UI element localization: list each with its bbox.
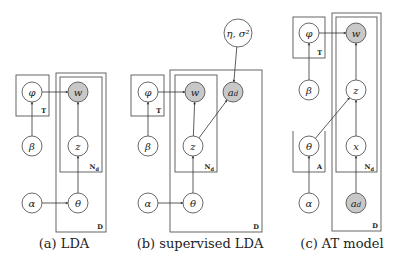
node-label-phi: φ [28,87,35,98]
node-label-w: w [74,87,83,98]
node-label-theta: θ [75,198,81,209]
plate-label-t: T [41,107,46,115]
plate-label-nd: Nd [205,163,215,172]
edge-theta-to-z [315,98,349,139]
node-label-eta: η, σ² [226,28,249,39]
plate-label-a: A [316,163,323,171]
edge-eta-to-ad [234,47,237,82]
plate-label-t: T [317,49,322,57]
caption-lda: (a) LDA [39,236,90,251]
node-label-z: z [352,85,359,96]
graphical-models-figure: TDNdφwβzαθ(a) LDATDNdη, σ²φwadβzαθ(b) su… [0,0,400,266]
node-label-w: w [191,87,200,98]
edge-z-to-w [193,102,194,136]
plate-label-d: D [253,223,259,231]
edge-z-to-ad [199,100,227,138]
plate-label-t: T [156,107,161,115]
node-label-phi: φ [305,28,312,39]
plate-label-d: D [97,223,103,231]
caption-slda: (b) supervised LDA [137,236,264,251]
node-label-alpha: α [145,198,152,209]
plate-label-nd: Nd [90,163,100,172]
node-label-phi: φ [144,87,151,98]
node-label-z: z [74,141,81,152]
node-label-z: z [189,141,196,152]
panel-slda: TDNdη, σ²φwadβzαθ(b) supervised LDA [131,19,264,251]
node-label-beta: β [28,141,35,152]
node-label-beta: β [144,141,151,152]
node-label-x: x [353,141,359,152]
node-label-w: w [352,28,361,39]
panel-at: TADNdφwβzθxαad(c) AT model [293,13,384,251]
node-label-beta: β [305,85,312,96]
node-label-alpha: α [29,198,36,209]
plate-label-nd: Nd [365,163,375,172]
panel-lda: TDNdφwβzαθ(a) LDA [16,73,106,251]
plate-label-d: D [372,222,378,230]
node-label-theta: θ [190,198,196,209]
node-label-alpha: α [306,198,313,209]
node-label-theta: θ [306,141,312,152]
caption-at: (c) AT model [300,236,383,251]
